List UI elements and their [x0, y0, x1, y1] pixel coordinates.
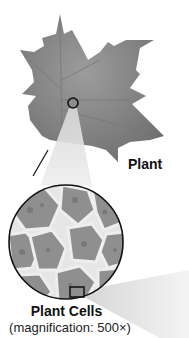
- maple-leaf-image: [20, 14, 164, 162]
- plant-cells-label: Plant Cells: [0, 303, 133, 319]
- plant-label: Plant: [128, 156, 162, 172]
- magnification-label: (magnification: 500×): [0, 320, 140, 335]
